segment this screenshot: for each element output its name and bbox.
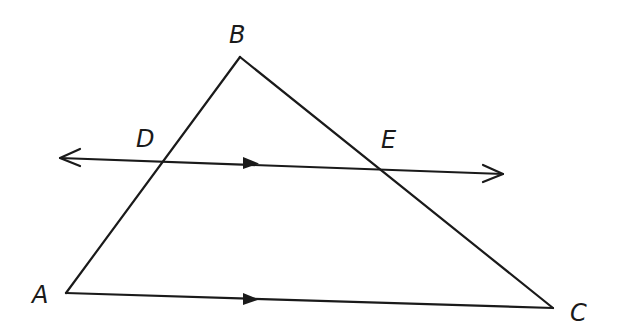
label-d: D xyxy=(136,127,154,151)
parallel-marker-de-icon xyxy=(243,157,259,169)
label-b: B xyxy=(229,23,245,47)
parallel-marker-ac-icon xyxy=(243,293,259,305)
label-a: A xyxy=(32,283,48,307)
line-de xyxy=(60,158,503,174)
label-e: E xyxy=(381,128,396,152)
segment-bc xyxy=(240,57,553,308)
triangle-diagram xyxy=(0,0,621,333)
segment-ab xyxy=(66,57,240,293)
segment-ac xyxy=(66,293,553,308)
label-c: C xyxy=(570,301,587,325)
